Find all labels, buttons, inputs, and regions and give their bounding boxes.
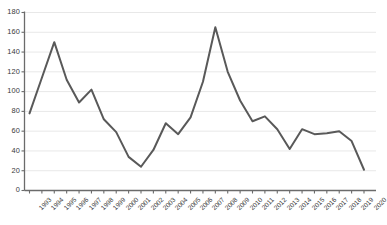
y-tick-label: 180 [0,8,20,16]
y-tick-label: 140 [0,48,20,56]
y-tick-label: 0 [0,186,20,194]
y-tick-label: 80 [0,107,20,115]
y-tick-label: 120 [0,68,20,76]
y-tick-label: 160 [0,28,20,36]
data-series-group [30,27,365,169]
y-tick-label: 100 [0,87,20,95]
data-line [30,27,365,169]
y-tick-label: 20 [0,167,20,175]
y-tick-label: 60 [0,127,20,135]
y-tick-label: 40 [0,147,20,155]
